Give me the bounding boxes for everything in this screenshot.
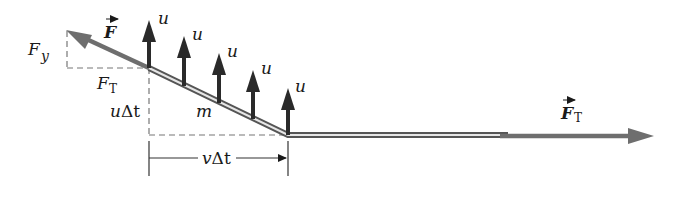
wave-pulse-diagram: u u u u u F F y F T uΔt m vΔt F — [0, 0, 681, 202]
tension-component-label: F T — [96, 73, 117, 96]
svg-text:T: T — [109, 82, 117, 96]
svg-text:T: T — [574, 111, 582, 125]
velocity-label-5: u — [295, 76, 306, 96]
tension-right-label: F T — [560, 100, 582, 125]
velocity-arrow-2 — [177, 36, 191, 86]
u-delta-t-label: uΔt — [110, 101, 140, 121]
velocity-label-1: u — [158, 8, 169, 28]
velocity-arrow-1 — [142, 20, 156, 68]
mass-label: m — [196, 101, 212, 121]
force-f-label: F — [103, 19, 118, 42]
svg-text:F: F — [560, 103, 575, 123]
svg-text:uΔt: uΔt — [110, 101, 140, 121]
svg-text:vΔt: vΔt — [202, 148, 231, 168]
velocity-arrow-3 — [212, 53, 226, 103]
velocity-arrow-4 — [246, 70, 260, 119]
velocity-arrow-5 — [281, 88, 295, 135]
svg-text:F: F — [103, 22, 118, 42]
velocity-label-2: u — [192, 24, 203, 44]
svg-text:F: F — [27, 39, 41, 59]
tension-ft-arrow — [500, 128, 654, 144]
force-y-label: F y — [27, 39, 50, 64]
velocity-label-4: u — [261, 58, 272, 78]
velocity-label-3: u — [227, 41, 238, 61]
svg-text:F: F — [96, 73, 110, 93]
svg-text:y: y — [40, 48, 50, 64]
v-delta-t-dimension: vΔt — [149, 141, 288, 176]
